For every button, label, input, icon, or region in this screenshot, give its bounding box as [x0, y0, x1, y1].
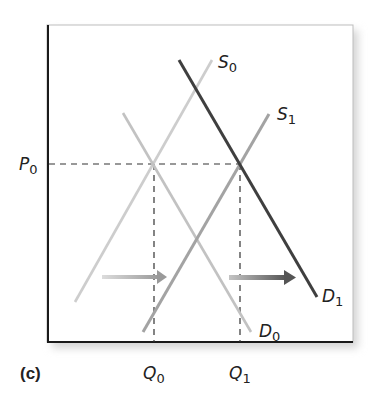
- plot-panel: [47, 25, 353, 342]
- label-p0: P0: [19, 154, 38, 177]
- label-q0: Q0: [143, 363, 165, 386]
- supply-demand-diagram: S0 S1 D1 D0 P0 Q0 Q1 (c): [0, 0, 375, 404]
- label-q1: Q1: [229, 363, 251, 386]
- panel-label: (c): [20, 364, 41, 383]
